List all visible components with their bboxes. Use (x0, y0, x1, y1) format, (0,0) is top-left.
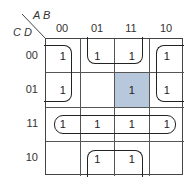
row-header-10: 10 (8, 151, 38, 163)
group-loop-bottom-wrap (87, 150, 143, 177)
col-header-01: 01 (80, 22, 114, 34)
cell-r3-c0 (46, 142, 81, 176)
col-header-10: 10 (149, 22, 183, 34)
row-header-11: 11 (8, 117, 38, 129)
group-loop-corner-right (156, 45, 184, 102)
kmap-grid: 1 1 1 1 1 1 1 1 1 1 1 1 1 (45, 38, 183, 175)
row-variable-label: C D (13, 26, 32, 38)
group-loop-row-11 (54, 115, 176, 134)
row-header-00: 00 (8, 49, 38, 61)
group-loop-corner-left (44, 45, 72, 102)
cell-r1-c1 (81, 73, 116, 107)
cell-r3-c3 (150, 142, 185, 176)
group-loop-top-wrap (87, 37, 143, 64)
row-header-01: 01 (8, 83, 38, 95)
col-header-00: 00 (45, 22, 79, 34)
col-variable-label: A B (33, 9, 50, 21)
col-header-11: 11 (114, 22, 148, 34)
cell-r1-c2-shaded: 1 (115, 73, 150, 107)
